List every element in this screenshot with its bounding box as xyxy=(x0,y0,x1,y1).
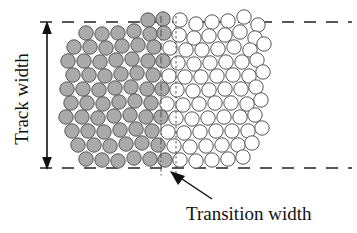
grain-magnetized xyxy=(98,69,112,83)
grain-unmagnetized xyxy=(161,125,175,139)
grain-unmagnetized xyxy=(201,111,215,125)
grain-magnetized xyxy=(113,123,127,137)
grain-magnetized xyxy=(157,26,171,40)
grain-magnetized xyxy=(95,153,109,167)
grain-magnetized xyxy=(67,40,81,54)
grain-magnetized xyxy=(87,138,101,152)
grain-unmagnetized xyxy=(218,82,232,96)
grain-magnetized xyxy=(139,110,153,124)
grain-unmagnetized xyxy=(173,13,187,27)
grain-unmagnetized xyxy=(248,108,262,122)
grain-magnetized xyxy=(158,153,172,167)
grain-magnetized xyxy=(64,96,78,110)
grain-unmagnetized xyxy=(234,82,248,96)
grain-unmagnetized xyxy=(237,10,251,24)
grain-unmagnetized xyxy=(219,55,233,69)
grain-magnetized xyxy=(115,39,129,53)
grain-magnetized xyxy=(143,152,157,166)
grain-magnetized xyxy=(141,13,155,27)
grain-magnetized xyxy=(79,152,93,166)
grain-unmagnetized xyxy=(211,42,225,56)
grain-magnetized xyxy=(66,68,80,82)
grain-unmagnetized xyxy=(225,124,239,138)
grain-magnetized xyxy=(114,67,128,81)
grain-magnetized xyxy=(135,136,149,150)
grain-magnetized xyxy=(125,52,139,66)
transition-width-label: Transition width xyxy=(186,203,311,225)
grain-magnetized xyxy=(77,54,91,68)
grain-unmagnetized xyxy=(233,110,247,124)
diagram-canvas xyxy=(0,0,357,233)
grain-magnetized xyxy=(128,94,142,108)
grain-magnetized xyxy=(147,40,161,54)
grain-magnetized xyxy=(107,109,121,123)
grain-magnetized xyxy=(80,96,94,110)
grain-unmagnetized xyxy=(193,125,207,139)
grain-magnetized xyxy=(59,110,73,124)
grain-unmagnetized xyxy=(194,70,208,84)
grain-magnetized xyxy=(129,122,143,136)
transition-leader-arrowhead xyxy=(170,171,185,185)
grain-magnetized xyxy=(130,66,144,80)
grain-unmagnetized xyxy=(187,57,201,71)
grain-unmagnetized xyxy=(256,65,270,79)
grain-layer xyxy=(59,10,271,168)
grain-unmagnetized xyxy=(202,29,216,43)
grain-unmagnetized xyxy=(249,80,263,94)
grain-unmagnetized xyxy=(177,126,191,140)
grain-magnetized xyxy=(79,26,93,40)
grain-magnetized xyxy=(108,81,122,95)
grain-magnetized xyxy=(111,154,125,168)
grain-magnetized xyxy=(92,83,106,97)
grain-magnetized xyxy=(112,95,126,109)
grain-unmagnetized xyxy=(251,18,265,32)
grain-magnetized xyxy=(65,124,79,138)
grain-magnetized xyxy=(91,111,105,125)
grain-unmagnetized xyxy=(167,139,181,153)
grain-unmagnetized xyxy=(179,43,193,57)
grain-magnetized xyxy=(97,125,111,139)
grain-magnetized xyxy=(111,26,125,40)
grain-unmagnetized xyxy=(203,56,217,70)
grain-magnetized xyxy=(141,54,155,68)
grain-magnetized xyxy=(123,108,137,122)
grain-magnetized xyxy=(95,27,109,41)
grain-unmagnetized xyxy=(218,28,232,42)
grain-unmagnetized xyxy=(257,37,271,51)
track-width-label: Track width xyxy=(11,39,33,159)
grain-unmagnetized xyxy=(217,110,231,124)
grain-unmagnetized xyxy=(170,83,184,97)
grain-unmagnetized xyxy=(178,70,192,84)
grain-unmagnetized xyxy=(173,153,187,167)
grain-unmagnetized xyxy=(199,139,213,153)
grain-unmagnetized xyxy=(162,69,176,83)
transition-leader-arrow xyxy=(170,171,212,199)
grain-magnetized xyxy=(76,82,90,96)
track-width-arrowhead-up xyxy=(42,21,52,34)
track-transition-diagram: Track width Transition width xyxy=(0,0,357,233)
grain-unmagnetized xyxy=(235,55,249,69)
grain-unmagnetized xyxy=(192,97,206,111)
grain-unmagnetized xyxy=(183,140,197,154)
grain-magnetized xyxy=(146,68,160,82)
grain-unmagnetized xyxy=(210,69,224,83)
grain-magnetized xyxy=(131,38,145,52)
grain-unmagnetized xyxy=(163,41,177,55)
grain-unmagnetized xyxy=(245,136,259,150)
grain-unmagnetized xyxy=(208,96,222,110)
grain-unmagnetized xyxy=(195,43,209,57)
grain-unmagnetized xyxy=(221,152,235,166)
grain-magnetized xyxy=(156,54,170,68)
grain-unmagnetized xyxy=(176,98,190,112)
track-width-double-arrow xyxy=(42,21,52,170)
grain-magnetized xyxy=(127,24,141,38)
grain-unmagnetized xyxy=(189,154,203,168)
grain-unmagnetized xyxy=(205,153,219,167)
grain-magnetized xyxy=(109,53,123,67)
grain-unmagnetized xyxy=(255,121,269,135)
grain-magnetized xyxy=(145,124,159,138)
grain-unmagnetized xyxy=(171,56,185,70)
grain-unmagnetized xyxy=(254,93,268,107)
grain-magnetized xyxy=(71,138,85,152)
grain-unmagnetized xyxy=(172,28,186,42)
